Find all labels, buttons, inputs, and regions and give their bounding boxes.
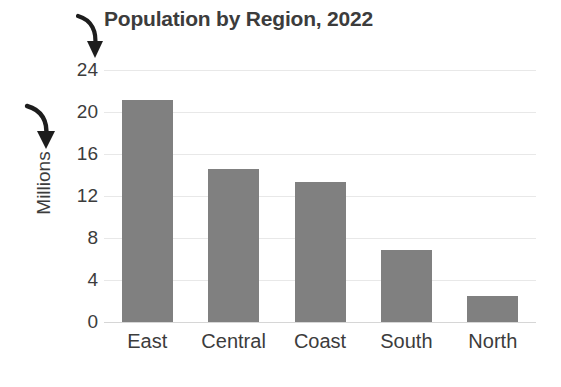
bar-coast[interactable] [295, 182, 346, 322]
x-tick-label-central: Central [201, 330, 265, 353]
x-tick-label-north: North [468, 330, 517, 353]
axis-baseline [104, 322, 536, 323]
x-tick-label-coast: Coast [294, 330, 346, 353]
y-tick-label: 24 [56, 59, 98, 81]
chart-screenshot: Population by Region, 2022 04812162024 M… [0, 0, 561, 387]
x-tick-label-south: South [380, 330, 432, 353]
y-tick-label: 16 [56, 143, 98, 165]
y-tick-label: 8 [56, 227, 98, 249]
plot-area [104, 70, 536, 322]
gridline [104, 70, 536, 71]
bar-south[interactable] [381, 250, 432, 322]
y-axis-title: Millions [33, 123, 55, 243]
y-axis-tick-labels: 04812162024 [52, 70, 98, 322]
y-tick-label: 12 [56, 185, 98, 207]
bar-east[interactable] [122, 100, 173, 322]
chart-title: Population by Region, 2022 [104, 7, 504, 31]
y-tick-label: 4 [56, 269, 98, 291]
y-tick-label: 20 [56, 101, 98, 123]
x-tick-label-east: East [127, 330, 167, 353]
y-tick-label: 0 [56, 311, 98, 333]
bar-central[interactable] [208, 169, 259, 322]
x-axis-tick-labels: EastCentralCoastSouthNorth [104, 330, 536, 364]
bar-north[interactable] [467, 296, 518, 322]
